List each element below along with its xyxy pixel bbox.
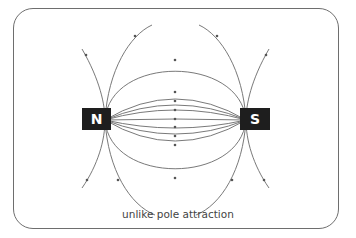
south-magnet-label: S <box>250 111 260 127</box>
north-magnet-label: N <box>91 111 103 127</box>
south-magnet: S <box>240 108 270 130</box>
diagram-caption: unlike pole attraction <box>0 208 356 220</box>
field-lines <box>0 0 356 238</box>
north-magnet: N <box>82 108 111 130</box>
